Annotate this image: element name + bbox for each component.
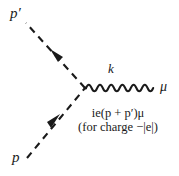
feynman-diagram-figure: p′ p k μ ie(p + p′)μ (for charge −|e|) [0,0,179,176]
diagram-canvas [0,0,179,176]
photon-wavy-line [86,85,153,92]
photon-index-label: μ [160,80,167,94]
vertex-factor-expression: ie(p + p′)μ [58,106,178,120]
outgoing-momentum-label: p′ [10,6,21,21]
photon-momentum-label: k [108,62,114,75]
outgoing-line-arrowhead [50,49,63,62]
interaction-vertex [84,86,87,89]
vertex-factor-annotation: ie(p + p′)μ (for charge −|e|) [58,106,178,135]
vertex-factor-charge-note: (for charge −|e|) [58,120,178,134]
incoming-momentum-label: p [12,150,20,165]
